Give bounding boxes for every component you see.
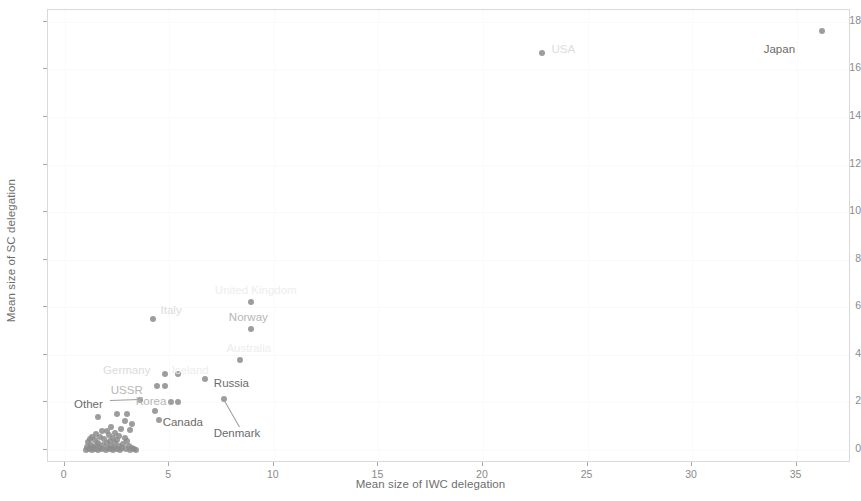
data-point xyxy=(118,426,124,432)
y-axis-title: Mean size of SC delegation xyxy=(0,0,22,501)
x-axis-tick-mark xyxy=(273,462,274,466)
gridline-vertical xyxy=(65,10,66,461)
data-point xyxy=(154,383,160,389)
data-point xyxy=(95,414,101,420)
data-point xyxy=(202,376,208,382)
gridline-vertical xyxy=(483,10,484,461)
x-axis-tick-label: 15 xyxy=(357,469,397,480)
data-point xyxy=(248,299,254,305)
point-label: Norway xyxy=(229,311,268,323)
x-axis-tick-label: 10 xyxy=(253,469,293,480)
scatter-plot-figure: Mean size of SC delegation Mean size of … xyxy=(0,0,861,501)
data-point xyxy=(150,316,156,322)
plot-panel: JapanUSAUnited KingdomItalyNorwayAustral… xyxy=(47,9,850,462)
x-axis-tick-mark xyxy=(796,462,797,466)
x-axis-title: Mean size of IWC delegation xyxy=(0,478,861,490)
data-point xyxy=(103,447,109,453)
gridline-horizontal xyxy=(48,355,849,356)
data-point xyxy=(248,326,254,332)
point-label: Australia xyxy=(226,342,271,354)
data-point xyxy=(168,399,174,405)
data-point xyxy=(127,447,133,453)
data-point xyxy=(110,447,116,453)
point-label: Italy xyxy=(161,304,182,316)
gridline-horizontal xyxy=(48,69,849,70)
point-label: USSR xyxy=(111,384,143,396)
x-axis-tick-label: 35 xyxy=(776,469,816,480)
data-point xyxy=(95,447,101,453)
point-label: Japan xyxy=(764,43,795,55)
x-axis-tick-mark xyxy=(587,462,588,466)
gridline-horizontal xyxy=(48,450,849,451)
x-axis-tick-mark xyxy=(168,462,169,466)
data-point xyxy=(114,411,120,417)
data-point xyxy=(156,417,162,423)
point-label: Iceland xyxy=(172,364,209,376)
x-axis-tick-mark xyxy=(482,462,483,466)
gridline-horizontal xyxy=(48,260,849,261)
gridline-horizontal xyxy=(48,117,849,118)
data-point xyxy=(124,411,130,417)
data-point xyxy=(162,383,168,389)
gridline-vertical xyxy=(797,10,798,461)
gridline-vertical xyxy=(588,10,589,461)
gridline-vertical xyxy=(274,10,275,461)
x-axis-tick-label: 25 xyxy=(567,469,607,480)
data-point xyxy=(122,418,128,424)
data-point xyxy=(237,357,243,363)
gridline-horizontal xyxy=(48,22,849,23)
point-label: Other xyxy=(74,398,103,410)
data-point xyxy=(539,50,545,56)
data-point xyxy=(127,427,133,433)
x-axis-tick-label: 5 xyxy=(148,469,188,480)
data-point xyxy=(133,447,139,453)
x-axis-tick-mark xyxy=(64,462,65,466)
data-point xyxy=(117,447,123,453)
x-axis-tick-label: 0 xyxy=(44,469,84,480)
gridline-horizontal xyxy=(48,212,849,213)
data-point xyxy=(819,28,825,34)
point-label: Denmark xyxy=(214,427,261,439)
point-label: Korea xyxy=(136,395,167,407)
data-point xyxy=(129,421,135,427)
x-axis-tick-label: 30 xyxy=(671,469,711,480)
gridline-vertical xyxy=(692,10,693,461)
x-axis-tick-mark xyxy=(691,462,692,466)
point-label: Canada xyxy=(163,416,203,428)
data-point xyxy=(89,447,95,453)
data-point xyxy=(83,447,89,453)
point-label: Germany xyxy=(103,364,150,376)
data-point xyxy=(152,408,158,414)
data-point xyxy=(175,399,181,405)
gridline-horizontal xyxy=(48,165,849,166)
point-label: United Kingdom xyxy=(215,284,297,296)
gridline-vertical xyxy=(169,10,170,461)
gridline-vertical xyxy=(378,10,379,461)
x-axis-tick-mark xyxy=(377,462,378,466)
point-label: USA xyxy=(552,43,576,55)
data-point xyxy=(162,371,168,377)
point-label: Russia xyxy=(214,377,249,389)
x-axis-tick-label: 20 xyxy=(462,469,502,480)
